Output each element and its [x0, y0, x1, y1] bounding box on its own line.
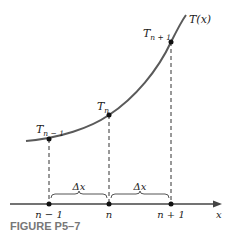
- delta-x-brace-1: [51, 191, 107, 198]
- delta-x-label-2: Δx: [133, 181, 147, 192]
- x-axis-arrow-icon: [213, 201, 222, 208]
- tick-label-n: n: [106, 209, 112, 220]
- tick-label-n-minus-1: n − 1: [35, 209, 63, 220]
- curve-label: T(x): [189, 13, 211, 26]
- axis-label-x: x: [216, 209, 222, 220]
- axis-point-n-plus-1: [169, 202, 174, 207]
- label-t-n: Tn: [97, 100, 109, 115]
- delta-x-label-1: Δx: [72, 181, 86, 192]
- axis-point-n-minus-1: [47, 202, 52, 207]
- label-t-n-minus-1: Tn − 1: [36, 123, 64, 138]
- figure-diagram: T(x) Tn + 1 Tn Tn − 1 Δx Δx n − 1 n n + …: [0, 0, 233, 241]
- figure-caption: FIGURE P5–7: [10, 220, 80, 232]
- tick-label-n-plus-1: n + 1: [157, 209, 185, 220]
- label-t-n-plus-1: Tn + 1: [143, 27, 171, 42]
- axis-point-n: [107, 202, 112, 207]
- delta-x-brace-2: [111, 191, 169, 198]
